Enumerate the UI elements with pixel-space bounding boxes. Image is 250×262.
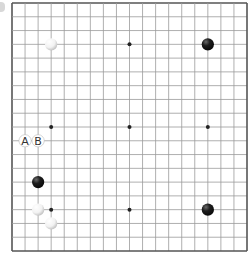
label-b[interactable]: B <box>32 135 44 148</box>
black-stone[interactable] <box>32 176 44 188</box>
label-a[interactable]: A <box>19 135 31 148</box>
star-point-icon <box>128 208 132 212</box>
white-stone[interactable] <box>45 217 57 229</box>
black-stone[interactable] <box>202 204 214 216</box>
black-stone[interactable] <box>202 38 214 50</box>
svg-text:A: A <box>21 135 29 148</box>
svg-text:B: B <box>34 135 42 148</box>
white-stone[interactable] <box>45 38 57 50</box>
white-stone[interactable] <box>32 204 44 216</box>
stones-layer <box>32 38 214 229</box>
go-board[interactable]: AB <box>0 0 250 262</box>
star-point-icon <box>128 42 132 46</box>
star-point-icon <box>49 208 53 212</box>
star-point-icon <box>49 125 53 129</box>
star-point-icon <box>128 125 132 129</box>
star-point-icon <box>206 125 210 129</box>
